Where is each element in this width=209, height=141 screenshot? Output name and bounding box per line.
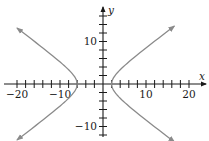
y-tick-label: 10	[84, 35, 97, 47]
y-axis-label: y	[107, 4, 115, 16]
hyperbola-plot: −20−101020 10−10 x y	[0, 0, 209, 141]
x-tick-label: −20	[6, 88, 28, 100]
x-tick-labels: −20−101020	[6, 88, 196, 100]
left-branch-upper	[17, 28, 77, 84]
x-axis-label: x	[199, 70, 205, 82]
x-tick-label: 10	[139, 88, 152, 100]
y-tick-label: −10	[75, 120, 97, 132]
x-tick-label: 20	[182, 88, 195, 100]
right-branch-upper	[112, 26, 175, 84]
